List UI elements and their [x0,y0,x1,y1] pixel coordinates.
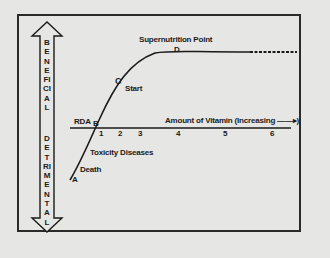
tick-4: 4 [176,130,180,138]
tick-2: 2 [118,130,122,138]
tick-6: 6 [270,130,274,138]
point-d-label: D [174,46,180,54]
tick-1: 1 [99,130,103,138]
point-b-label: B [93,120,99,128]
tick-5: 5 [223,130,227,138]
point-c-label: C [115,77,121,86]
x-axis-label: Amount of Vitamin (Increasing ——▸) [165,117,299,125]
death-label: Death [80,166,101,174]
start-label: Start [125,85,142,93]
detrimental-label: DETRIMENTAL [42,134,52,227]
beneficial-label: BENEFICIAL [42,38,52,112]
tick-3: 3 [138,130,142,138]
point-a-label: A [72,176,78,184]
supernutrition-point-label: Supernutrition Point [139,36,212,44]
toxicity-diseases-label: Toxicity Diseases [90,149,153,157]
rda-label: RDA [74,118,91,126]
